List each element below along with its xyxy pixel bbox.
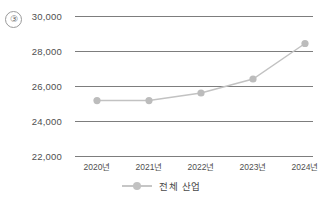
data-point-marker	[249, 75, 256, 82]
x-axis-labels: 2020년2021년2022년2023년2024년	[75, 160, 313, 174]
x-axis-tick-label: 2024년	[292, 160, 319, 172]
chart-legend: 전체 산업	[0, 179, 323, 193]
legend-marker-icon	[133, 182, 141, 190]
legend-line-swatch	[122, 185, 152, 187]
data-point-marker	[93, 97, 100, 104]
legend-entry-label: 전체 산업	[159, 179, 200, 193]
data-point-marker	[301, 40, 308, 47]
x-axis-tick-label: 2023년	[240, 160, 267, 172]
x-axis-tick-label: 2021년	[136, 160, 163, 172]
line-chart-figure: ③ 22,00024,00026,00028,00030,000 2020년20…	[0, 0, 323, 204]
x-axis-tick-label: 2020년	[84, 160, 111, 172]
x-axis-tick-label: 2022년	[188, 160, 215, 172]
data-point-marker	[197, 89, 204, 96]
data-point-marker	[145, 97, 152, 104]
